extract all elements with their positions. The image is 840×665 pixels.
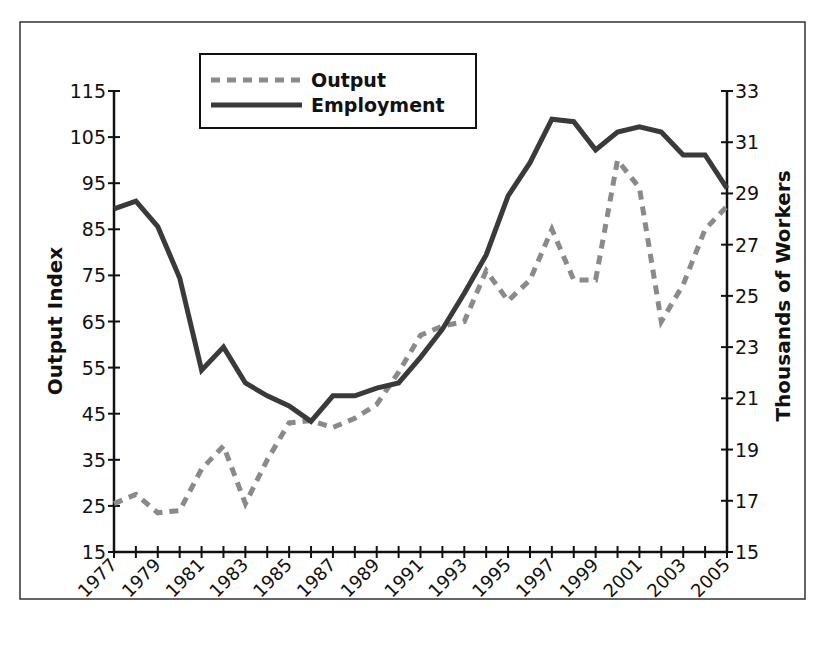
- series: [114, 119, 727, 513]
- y-tick-label-left: 25: [82, 495, 106, 517]
- y-tick-label-left: 55: [82, 357, 106, 379]
- y-tick-label-right: 25: [735, 285, 759, 307]
- y-tick-label-left: 105: [70, 126, 106, 148]
- legend-label-employment: Employment: [311, 94, 445, 116]
- y-tick-label-left: 35: [82, 449, 106, 471]
- x-tick-label: 1987: [293, 554, 340, 601]
- x-tick-label: 1985: [249, 554, 296, 601]
- y-tick-label-left: 75: [82, 264, 106, 286]
- y-tick-label-left: 65: [82, 311, 106, 333]
- y-tick-label-left: 95: [82, 172, 106, 194]
- x-tick-label: 1989: [336, 554, 383, 601]
- legend-box: [200, 54, 476, 128]
- y-tick-label-right: 15: [735, 541, 759, 563]
- x-tick-label: 1991: [380, 554, 427, 601]
- chart: OutputEmployment 15253545556575859510511…: [0, 0, 840, 665]
- legend: OutputEmployment: [200, 54, 476, 128]
- y-tick-label-right: 23: [735, 336, 759, 358]
- x-tick-label: 1997: [511, 554, 558, 601]
- y-tick-label-right: 21: [735, 387, 759, 409]
- x-tick-label: 1995: [468, 554, 515, 601]
- y-tick-label-left: 115: [70, 80, 106, 102]
- series-output-line: [114, 160, 727, 513]
- y-tick-label-right: 33: [735, 80, 759, 102]
- y-tick-label-right: 19: [735, 439, 759, 461]
- x-tick-label: 1979: [117, 554, 164, 601]
- y-tick-label-right: 27: [735, 234, 759, 256]
- x-tick-label: 2001: [599, 554, 646, 601]
- y-axis-title-right: Thousands of Workers: [771, 170, 795, 421]
- x-tick-label: 1981: [161, 554, 208, 601]
- x-tick-label: 2003: [643, 554, 690, 601]
- y-axis-title-left: Output Index: [43, 247, 67, 395]
- y-tick-label-right: 29: [735, 182, 759, 204]
- y-tick-label-left: 45: [82, 403, 106, 425]
- x-tick-label: 1993: [424, 554, 471, 601]
- series-employment-line: [114, 119, 727, 421]
- y-tick-label-right: 17: [735, 490, 759, 512]
- axes: 1525354555657585951051151517192123252729…: [43, 80, 795, 601]
- x-tick-label: 1983: [205, 554, 252, 601]
- legend-label-output: Output: [311, 69, 386, 91]
- y-tick-label-left: 85: [82, 218, 106, 240]
- x-tick-label: 2005: [687, 554, 734, 601]
- y-tick-label-right: 31: [735, 131, 759, 153]
- x-tick-label: 1999: [555, 554, 602, 601]
